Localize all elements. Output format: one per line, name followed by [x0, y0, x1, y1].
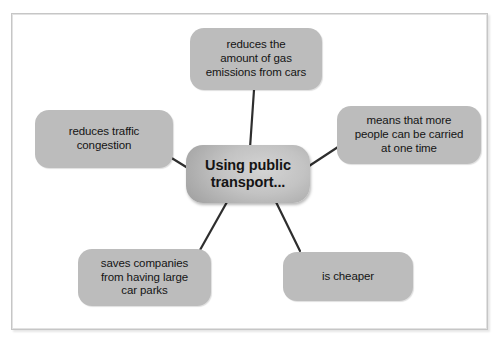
branch-node-top[interactable]: reduces the amount of gas emissions from… [190, 28, 322, 90]
connector-center-to-top [250, 90, 254, 148]
branch-node-top-label: reduces the amount of gas emissions from… [206, 38, 306, 79]
branch-node-bottom-left-label: saves companies from having large car pa… [101, 257, 188, 298]
branch-node-bottom-left[interactable]: saves companies from having large car pa… [78, 249, 211, 306]
center-node-label: Using public transport... [205, 157, 291, 192]
diagram-canvas: reduces the amount of gas emissions from… [0, 0, 502, 345]
connector-center-to-bottomleft [200, 202, 227, 250]
connector-center-to-right [306, 147, 338, 168]
branch-node-left-label: reduces traffic congestion [69, 125, 140, 153]
center-node[interactable]: Using public transport... [186, 145, 310, 203]
connector-center-to-bottomright [276, 202, 300, 251]
branch-node-bottom-right-label: is cheaper [322, 270, 374, 284]
branch-node-left[interactable]: reduces traffic congestion [35, 110, 173, 168]
branch-node-bottom-right[interactable]: is cheaper [283, 252, 413, 301]
branch-node-right[interactable]: means that more people can be carried at… [337, 106, 481, 164]
branch-node-right-label: means that more people can be carried at… [355, 114, 464, 155]
